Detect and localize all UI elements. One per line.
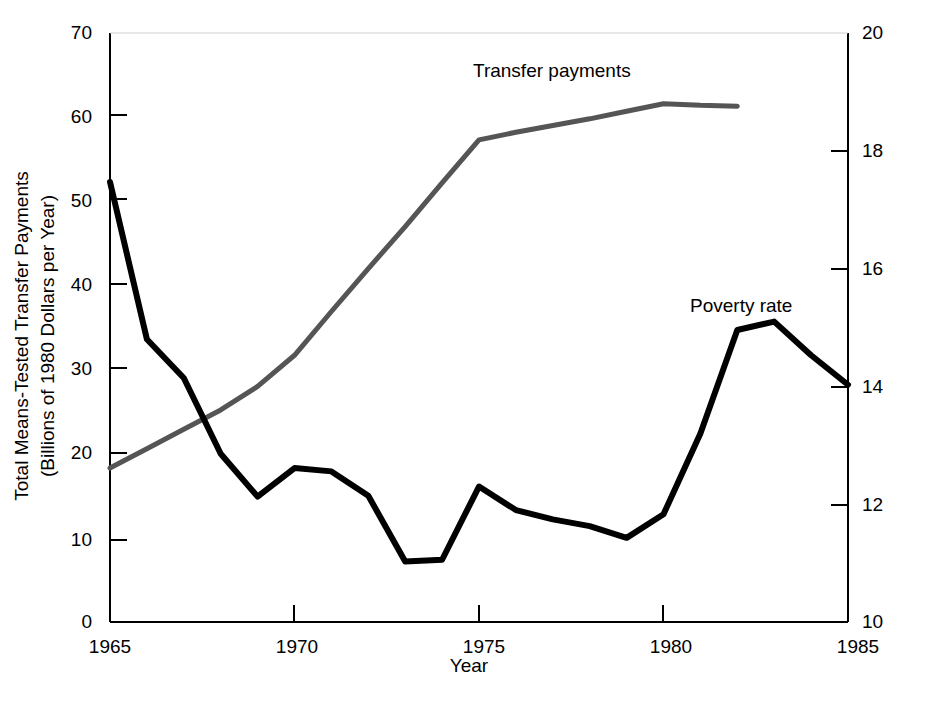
y-axis-left-ticks — [110, 115, 127, 540]
plot-area — [0, 0, 938, 702]
x-axis-ticks — [294, 605, 663, 622]
chart-figure: Total Means-Tested Transfer Payments (Bi… — [0, 0, 938, 702]
y-axis-right-ticks — [831, 151, 848, 505]
series-line-poverty-rate — [110, 182, 848, 561]
